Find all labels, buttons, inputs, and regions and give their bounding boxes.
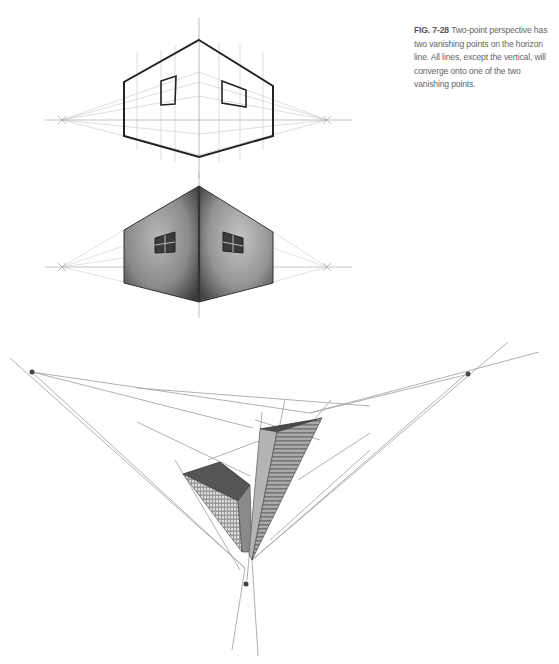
figure-caption: FIG. 7-28 Two-point perspective has two … [414, 24, 554, 92]
vanishing-point-left-3p [30, 370, 35, 375]
figure-label: FIG. 7-28 [414, 25, 451, 35]
figure-illustration [0, 0, 559, 664]
window-right [222, 81, 246, 107]
vanishing-point-bottom-3p [244, 582, 249, 587]
three-point-buildings [10, 342, 539, 656]
box-outline [124, 40, 273, 157]
vanishing-point-right-3p [466, 372, 471, 377]
two-point-line-drawing [45, 18, 352, 178]
two-point-shaded-drawing [45, 172, 352, 318]
